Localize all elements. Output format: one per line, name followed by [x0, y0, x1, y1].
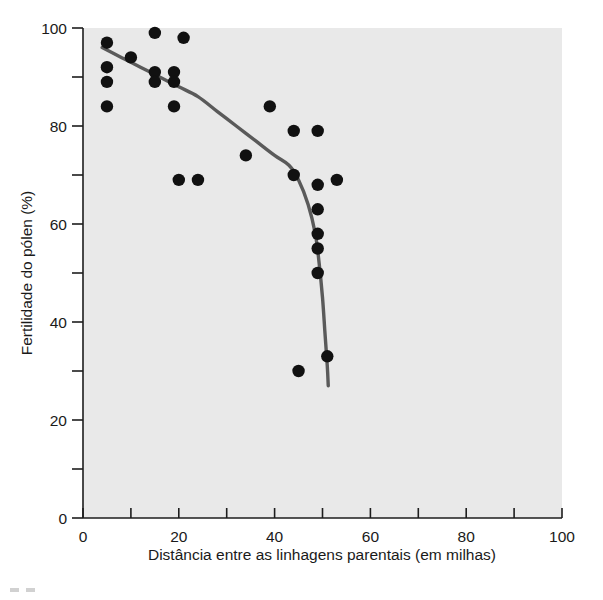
caption-stub	[10, 588, 35, 592]
data-point	[312, 228, 324, 240]
data-point	[101, 76, 113, 88]
data-point	[292, 365, 304, 377]
y-tick-label: 20	[50, 412, 68, 429]
scatter-plot: 020406080100020406080100 Distância entre…	[0, 0, 603, 600]
data-point	[312, 267, 324, 279]
data-point	[288, 169, 300, 181]
data-point	[149, 27, 161, 39]
data-point	[331, 174, 343, 186]
data-point	[101, 100, 113, 112]
data-point	[264, 100, 276, 112]
data-point	[168, 100, 180, 112]
data-point	[149, 76, 161, 88]
data-point	[321, 350, 333, 362]
y-tick-label: 60	[50, 216, 68, 233]
x-tick-label: 60	[362, 528, 380, 545]
y-tick-label: 100	[41, 20, 67, 37]
x-tick-label: 80	[458, 528, 476, 545]
y-tick-label: 80	[50, 118, 68, 135]
data-point	[101, 61, 113, 73]
data-point	[312, 125, 324, 137]
data-point	[192, 174, 204, 186]
y-tick-label: 40	[50, 314, 68, 331]
x-tick-label: 0	[79, 528, 88, 545]
data-point	[168, 76, 180, 88]
figure-container: 020406080100020406080100 Distância entre…	[0, 0, 603, 600]
data-point	[312, 203, 324, 215]
data-point	[173, 174, 185, 186]
data-point	[101, 37, 113, 49]
x-tick-label: 20	[170, 528, 188, 545]
x-axis-title: Distância entre as linhagens parentais (…	[148, 546, 496, 563]
data-point	[177, 32, 189, 44]
y-axis-title: Fertilidade do pólen (%)	[18, 191, 35, 356]
x-tick-label: 100	[549, 528, 575, 545]
x-tick-label: 40	[266, 528, 284, 545]
data-point	[240, 149, 252, 161]
data-point	[288, 125, 300, 137]
y-tick-label: 0	[58, 510, 67, 527]
data-point	[125, 51, 137, 63]
data-point	[312, 179, 324, 191]
data-point	[312, 242, 324, 254]
